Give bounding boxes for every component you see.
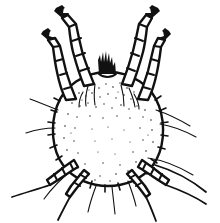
gnathosoma (98, 51, 116, 77)
mite-illustration-figure (0, 0, 220, 223)
mite-drawing-canvas (0, 0, 220, 223)
